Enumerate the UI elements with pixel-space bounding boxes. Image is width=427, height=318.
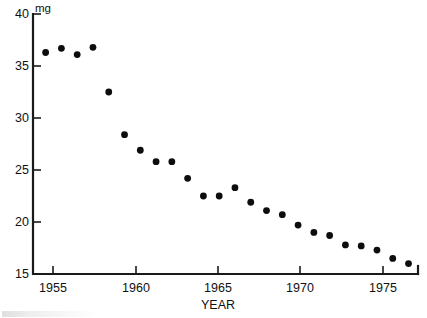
data-point	[405, 260, 412, 267]
data-point	[247, 199, 254, 206]
data-point	[153, 158, 160, 165]
data-point	[58, 45, 65, 52]
y-tick-label: 40	[15, 7, 29, 21]
x-tick-label: 1975	[369, 281, 397, 295]
data-point	[168, 158, 175, 165]
y-axis-ticks	[33, 14, 41, 274]
data-point	[74, 51, 81, 58]
data-point	[374, 247, 381, 254]
chart-axes	[33, 14, 418, 274]
y-axis-unit-label: mg	[35, 2, 51, 14]
scatter-chart: mg 40 35 30 25 20 15	[0, 0, 427, 318]
y-tick-label: 15	[15, 267, 29, 281]
y-tick-label: 20	[15, 215, 29, 229]
data-point	[279, 211, 286, 218]
data-point	[121, 131, 128, 138]
y-tick-label: 30	[15, 111, 29, 125]
y-tick-label: 35	[15, 59, 29, 73]
data-point	[184, 175, 191, 182]
data-point	[42, 49, 49, 56]
x-axis-ticks	[53, 266, 383, 274]
data-point	[200, 193, 207, 200]
data-point	[137, 147, 144, 154]
data-point	[342, 241, 349, 248]
data-point	[216, 193, 223, 200]
chart-canvas: mg 40 35 30 25 20 15	[0, 0, 427, 318]
data-point	[295, 222, 302, 229]
data-point	[326, 232, 333, 239]
data-point	[105, 89, 112, 96]
y-tick-label: 25	[15, 163, 29, 177]
x-tick-label: 1965	[204, 281, 232, 295]
x-tick-label: 1970	[286, 281, 314, 295]
data-point	[310, 229, 317, 236]
data-point	[263, 207, 270, 214]
y-axis-tick-labels: 40 35 30 25 20 15	[15, 7, 29, 281]
x-tick-label: 1955	[39, 281, 67, 295]
data-point	[232, 184, 239, 191]
x-tick-label: 1960	[122, 281, 150, 295]
data-point	[90, 44, 97, 51]
data-point	[358, 243, 365, 250]
x-axis-title: YEAR	[201, 298, 235, 312]
x-axis-tick-labels: 1955 1960 1965 1970 1975	[39, 281, 397, 295]
data-series	[42, 44, 412, 267]
data-point	[389, 255, 396, 262]
